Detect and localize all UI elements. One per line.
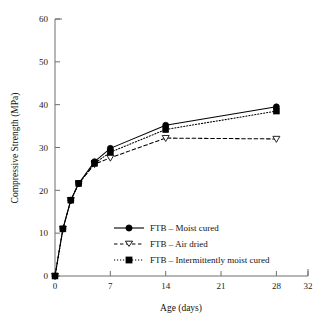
filled-square-icon [126, 257, 132, 263]
filled-circle-icon [126, 225, 132, 231]
y-tick-label: 50 [39, 57, 49, 67]
x-tick-label: 32 [304, 281, 313, 291]
x-tick-label: 21 [217, 281, 226, 291]
x-tick-label: 28 [272, 281, 282, 291]
y-tick-label: 30 [39, 143, 49, 153]
filled-circle-marker [107, 145, 113, 151]
filled-circle-marker [52, 273, 58, 279]
y-tick-label: 0 [44, 271, 49, 281]
chart-figure: 0102030405060 0714212832 Age (days) Comp… [0, 0, 323, 326]
filled-circle-marker [60, 226, 66, 232]
filled-circle-marker [68, 197, 74, 203]
filled-circle-marker [273, 104, 279, 110]
y-tick-label: 60 [39, 14, 49, 24]
compressive-strength-line-chart: 0102030405060 0714212832 Age (days) Comp… [0, 0, 323, 326]
x-tick-label: 7 [108, 281, 113, 291]
y-tick-label: 10 [39, 228, 49, 238]
filled-circle-marker [92, 159, 98, 165]
y-tick-label: 40 [39, 100, 49, 110]
y-axis-title: Compressive Strength (MPa) [10, 93, 21, 204]
x-tick-label: 0 [53, 281, 58, 291]
x-tick-label: 14 [161, 281, 171, 291]
filled-circle-marker [76, 180, 82, 186]
legend-label-moist-cured: FTB – Moist cured [150, 223, 219, 233]
legend-label-intermittently-moist-cured: FTB – Intermittently moist cured [150, 255, 270, 265]
chart-background [0, 0, 323, 326]
x-axis-title: Age (days) [160, 303, 202, 314]
filled-circle-marker [163, 122, 169, 128]
legend-label-air-dried: FTB – Air dried [150, 239, 208, 249]
y-tick-label: 20 [39, 186, 49, 196]
